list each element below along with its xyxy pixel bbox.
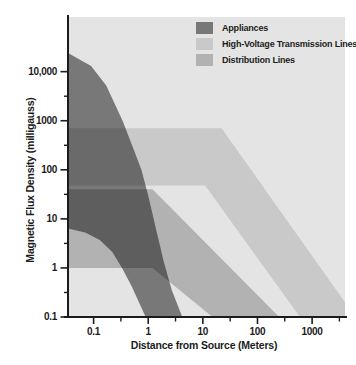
y-tick-label: 0.1 <box>15 312 57 322</box>
legend-swatch-high-voltage-icon <box>196 38 213 50</box>
x-tick-label: 1000 <box>291 327 333 337</box>
legend-item-high-voltage-transmission-lines: High-Voltage Transmission Lines <box>196 38 356 50</box>
legend-item-appliances: Appliances <box>196 22 356 34</box>
y-tick-label: 10 <box>15 214 57 224</box>
x-tick-label: 100 <box>236 327 278 337</box>
x-tick-label: 0.1 <box>73 327 115 337</box>
x-tick-label: 1 <box>127 327 169 337</box>
chart-figure: 10,00010001001010.10.11101001000 Magneti… <box>0 0 356 365</box>
y-tick-label: 10,000 <box>15 67 57 77</box>
y-axis-title: Magnetic Flux Density (milligauss) <box>24 97 36 262</box>
legend-swatch-distribution-icon <box>196 54 213 66</box>
y-tick-label: 1000 <box>15 116 57 126</box>
x-axis-title: Distance from Source (Meters) <box>0 339 356 351</box>
y-tick-label: 100 <box>15 165 57 175</box>
legend: Appliances High-Voltage Transmission Lin… <box>196 22 356 70</box>
legend-label-distribution: Distribution Lines <box>222 54 295 66</box>
x-tick-label: 10 <box>182 327 224 337</box>
legend-label-high-voltage: High-Voltage Transmission Lines <box>222 38 356 50</box>
legend-item-distribution-lines: Distribution Lines <box>196 54 356 66</box>
y-tick-label: 1 <box>15 263 57 273</box>
legend-swatch-appliances-icon <box>196 22 213 34</box>
legend-label-appliances: Appliances <box>222 22 268 34</box>
